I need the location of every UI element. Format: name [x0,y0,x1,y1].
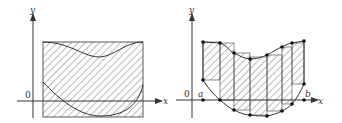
b-label: b [305,89,311,99]
origin-label: 0 [184,89,190,99]
x-axis-label: x [318,96,323,106]
a-label: a [198,89,203,99]
right-figure: y x 0 a b [176,5,323,118]
y-axis-label: y [29,5,36,15]
origin-label: 0 [25,90,31,100]
hatched-rectangle [43,42,143,117]
hatched-strips [203,42,304,115]
left-figure: y x 0 [17,5,168,118]
diagram-canvas: y x 0 [0,0,342,123]
y-axis-label: y [188,5,195,15]
x-axis-label: x [163,96,168,106]
